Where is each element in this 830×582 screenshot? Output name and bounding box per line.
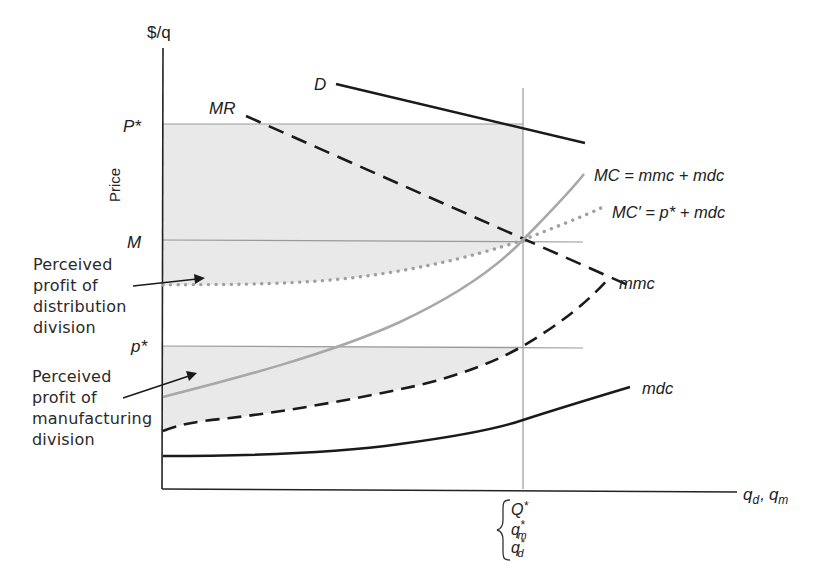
y-axis xyxy=(162,48,163,489)
q-star-label: Q* xyxy=(511,499,528,518)
annotation-line: profit of xyxy=(33,275,127,296)
x-axis xyxy=(162,489,737,492)
x-axis-label: qd,qm xyxy=(743,485,788,507)
annotation-line: division xyxy=(32,429,152,450)
manufacturing-profit-annotation: Perceived profit of manufacturing divisi… xyxy=(32,366,152,450)
annotation-line: manufacturing xyxy=(32,408,152,429)
p-star-lower-label: p* xyxy=(130,337,148,356)
distribution-profit-annotation: Perceived profit of distribution divisio… xyxy=(33,254,127,338)
m-label: M xyxy=(127,233,142,252)
distribution-profit-region xyxy=(163,124,523,285)
quantity-marker: Q* q*m q*d xyxy=(497,499,528,560)
y-axis-title: Price xyxy=(106,168,123,202)
mmc-label: mmc xyxy=(619,274,655,292)
mc-label: MC = mmc + mdc xyxy=(594,166,725,184)
transfer-pricing-diagram: $/q Price P* M p* D MR MC = mmc + mdc MC… xyxy=(0,0,830,582)
annotation-line: Perceived xyxy=(33,254,127,275)
mr-label: MR xyxy=(209,99,235,118)
y-axis-unit-label: $/q xyxy=(147,23,171,42)
p-star-upper-label: P* xyxy=(123,117,142,136)
mc-prime-label: MC′ = p* + mdc xyxy=(612,203,726,221)
mdc-label: mdc xyxy=(642,379,674,397)
annotation-line: profit of xyxy=(32,387,152,408)
qd-star-label: q*d xyxy=(511,536,525,559)
demand-label: D xyxy=(314,75,326,94)
annotation-line: distribution xyxy=(33,296,127,317)
brace-icon xyxy=(497,500,510,560)
annotation-line: Perceived xyxy=(32,366,152,387)
annotation-line: division xyxy=(33,317,127,338)
